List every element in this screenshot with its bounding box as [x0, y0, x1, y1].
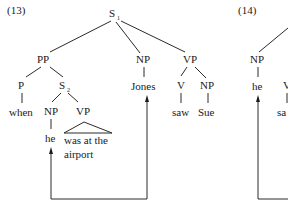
leaf-sue: Sue: [198, 106, 215, 118]
node-np-sue: NP: [200, 79, 214, 91]
tree-svg: (13) S 1 PP NP Jones VP V saw NP Sue P w…: [0, 0, 288, 200]
edge-s2-vp: [68, 93, 78, 102]
node-14-v-partial: V: [283, 79, 288, 91]
node-vp-sub: VP: [76, 105, 90, 117]
node-s2: S 2: [59, 79, 70, 93]
node-p: P: [18, 79, 24, 91]
arrowhead-jones: [145, 95, 149, 102]
edge-s1-vp: [121, 21, 185, 52]
edge-vp-v: [181, 67, 187, 76]
edge-s2-np: [52, 93, 61, 102]
leaf-he: he: [45, 132, 56, 144]
coreference-arrow-13: [49, 95, 149, 199]
leaf-vp-phrase-line1: was at the: [64, 134, 108, 146]
node-s1: S 1: [109, 7, 120, 21]
arrowhead-he: [49, 147, 53, 154]
edge-pp-p: [26, 67, 41, 77]
node-vp-main: VP: [183, 53, 197, 65]
node-np-he: NP: [44, 105, 58, 117]
svg-text:2: 2: [67, 87, 70, 93]
leaf-jones: Jones: [131, 80, 155, 92]
edge-pp-s2: [50, 67, 63, 77]
leaf-saw: saw: [172, 106, 189, 118]
syntax-tree-figure: (13) S 1 PP NP Jones VP V saw NP Sue P w…: [0, 0, 288, 200]
svg-text:S: S: [109, 7, 115, 19]
example-13-label: (13): [7, 4, 26, 17]
edge-s1-np: [116, 22, 140, 53]
edge-14-root-np: [259, 28, 288, 52]
leaf-14-he: he: [252, 80, 263, 92]
node-pp: PP: [37, 53, 49, 65]
node-v: V: [177, 79, 185, 91]
svg-text:1: 1: [117, 15, 120, 21]
svg-text:S: S: [59, 79, 65, 91]
leaf-when: when: [9, 106, 33, 118]
example-14-label: (14): [238, 4, 257, 17]
edge-s1-pp: [50, 21, 111, 52]
edge-vp-np: [195, 67, 206, 78]
leaf-14-saw-partial: sa: [277, 106, 286, 118]
node-np-jones: NP: [136, 53, 150, 65]
triangle-vp-sub: [64, 122, 112, 133]
node-14-np: NP: [250, 53, 264, 65]
arrowhead-14-he: [256, 95, 260, 102]
leaf-vp-phrase-line2: airport: [64, 148, 93, 160]
